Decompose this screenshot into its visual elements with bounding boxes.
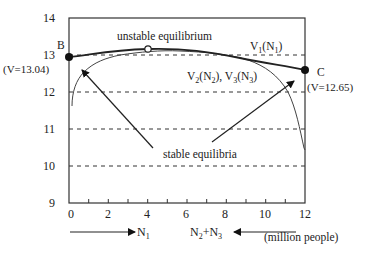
- label-stable-equilibria: stable equilibria: [163, 148, 237, 161]
- unstable-equilibrium-marker: [145, 46, 151, 52]
- x-tick-label: 10: [259, 207, 271, 221]
- y-tick-label: 14: [43, 11, 55, 25]
- y-tick-label: 11: [43, 122, 55, 136]
- label-n1: N1: [137, 225, 150, 241]
- x-ticks: [89, 199, 286, 203]
- x-tick-label: 6: [183, 207, 189, 221]
- v2-v3-curve: [72, 51, 305, 150]
- point-b-marker: [65, 53, 73, 61]
- label-unstable-equilibrium: unstable equilibrium: [117, 30, 212, 43]
- label-b: B: [57, 39, 65, 51]
- x-tick-label: 8: [222, 207, 228, 221]
- x-tick-label: 0: [68, 207, 74, 221]
- y-tick-label: 9: [49, 196, 55, 210]
- label-v2-v3: V2(N2), V3(N3): [187, 70, 257, 85]
- label-c: C: [317, 66, 325, 78]
- x-tick-label: 2: [105, 207, 111, 221]
- label-b-value: (V=13.04): [3, 63, 50, 76]
- y-tick-label: 10: [43, 159, 55, 173]
- y-tick-labels: 14 13 12 11 10 9: [43, 11, 55, 210]
- label-unit: (million people): [264, 231, 339, 244]
- arrow-stable-left: [82, 70, 153, 148]
- chart: 14 13 12 11 10 9 0 2 4 6 8 10 12 B (V=13…: [0, 0, 370, 254]
- label-v1: V1(N1): [250, 40, 282, 55]
- x-tick-label: 12: [299, 207, 311, 221]
- y-tick-label: 12: [43, 85, 55, 99]
- label-c-value: (V=12.65): [307, 81, 354, 94]
- x-tick-labels: 0 2 4 6 8 10 12: [68, 207, 311, 221]
- arrow-stable-right: [212, 81, 294, 142]
- y-tick-label: 13: [43, 48, 55, 62]
- label-n2-n3: N2+N3: [190, 225, 222, 241]
- x-tick-label: 4: [144, 207, 150, 221]
- point-c-marker: [301, 66, 309, 74]
